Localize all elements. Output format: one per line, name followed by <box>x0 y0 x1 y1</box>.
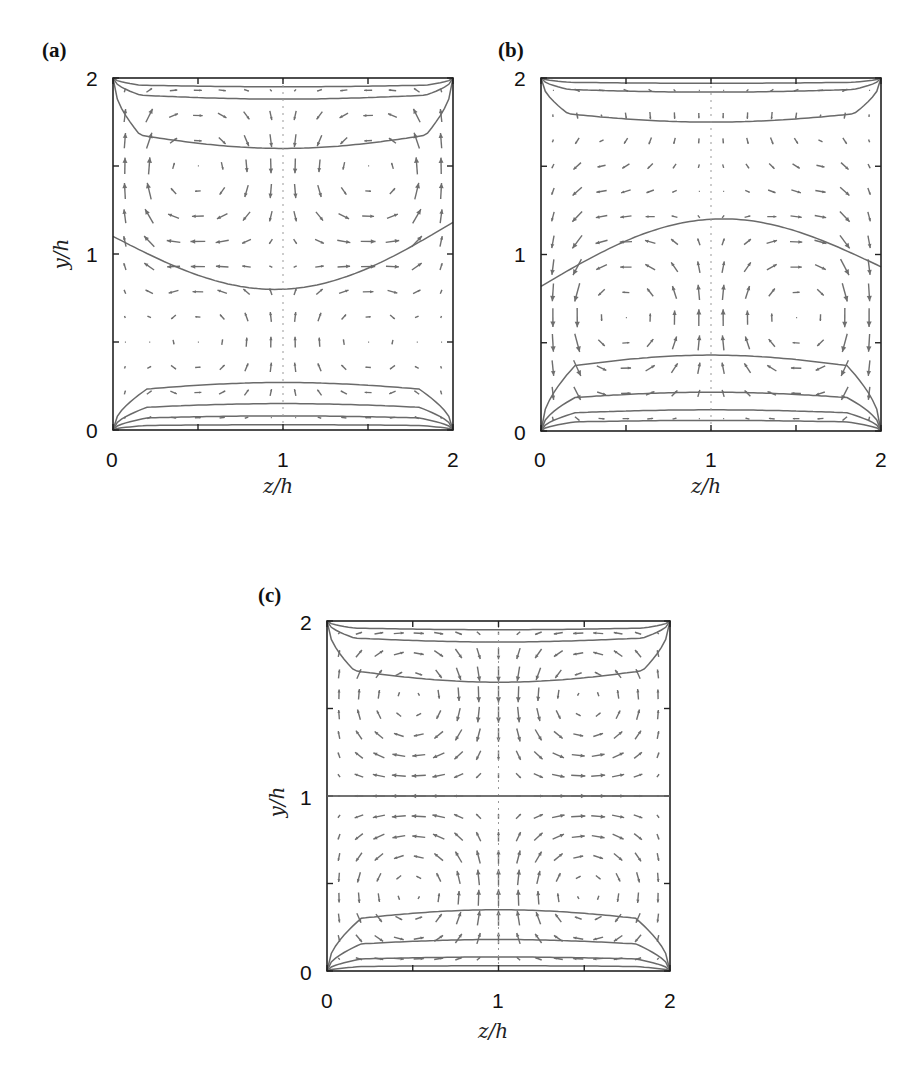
ylabel-c: y/h <box>267 787 287 818</box>
ytick-c-0: 0 <box>300 962 312 983</box>
xtick-c-1: 1 <box>492 990 504 1011</box>
ytick-c-2: 2 <box>300 612 312 633</box>
quiver-plot-c <box>0 0 923 1070</box>
ytick-c-1: 1 <box>300 787 312 808</box>
xtick-c-2: 2 <box>664 990 676 1011</box>
xtick-c-0: 0 <box>321 990 333 1011</box>
xlabel-c: z/h <box>478 1021 508 1041</box>
